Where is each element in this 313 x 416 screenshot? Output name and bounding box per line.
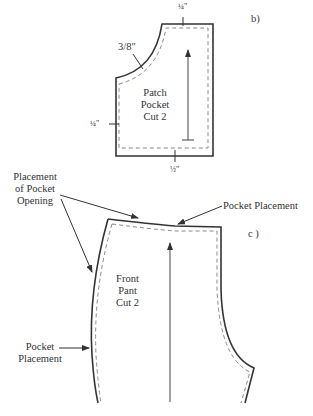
front-pant-name: Front Pant Cut 2 [110, 273, 145, 309]
seam-allowance-curve-label: 3/8" [118, 41, 136, 53]
patch-pocket-line3: Cut 2 [130, 111, 180, 123]
front-pant-line1: Front [110, 273, 145, 285]
pocket-opening-callout: Placement of Pocket Opening [10, 171, 60, 207]
seam-allowance-top-label: ¼" [178, 1, 187, 13]
pocket-placement-side-callout: Pocket Placement [14, 341, 66, 365]
pocket-placement-side-line1: Pocket [14, 341, 66, 353]
panel-label-c: c ) [248, 228, 259, 240]
panel-label-b: b) [251, 13, 260, 25]
front-pant-line2: Pant [110, 285, 145, 297]
patch-pocket-line2: Pocket [130, 99, 180, 111]
patch-pocket-line1: Patch [130, 87, 180, 99]
patch-pocket-name: Patch Pocket Cut 2 [130, 87, 180, 123]
seam-allowance-left-label: ¼" [90, 118, 99, 130]
pocket-opening-line3: Opening [10, 195, 60, 207]
front-pant-piece [59, 195, 254, 403]
pocket-opening-line1: Placement [10, 171, 60, 183]
pocket-placement-top-callout: Pocket Placement [223, 200, 298, 212]
pocket-opening-line2: of Pocket [10, 183, 60, 195]
pattern-diagram: ¼" b) 3/8" Patch Pocket Cut 2 ¼" ½" Plac… [0, 0, 313, 416]
pocket-placement-side-line2: Placement [14, 353, 66, 365]
seam-allowance-bottom-label: ½" [170, 164, 179, 176]
front-pant-line3: Cut 2 [110, 297, 145, 309]
